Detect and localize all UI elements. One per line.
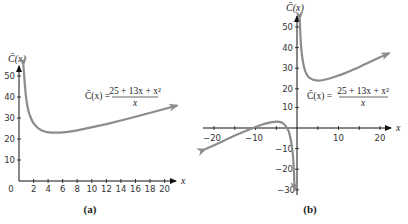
y-tick-label: 40 — [282, 43, 293, 53]
x-axis-label: x — [395, 122, 401, 133]
x-tick-label: 10 — [333, 133, 344, 143]
x-tick-label: 10 — [86, 184, 97, 194]
cost-curve-left-branch — [205, 122, 295, 190]
cost-curve-right-branch — [300, 19, 389, 81]
figure: 0 2 4 6 8 10 12 14 16 18 20 x 10 20 30 4… — [0, 0, 408, 224]
y-tick-label: 50 — [4, 71, 15, 81]
y-tick-label: 30 — [4, 113, 15, 123]
y-tick-label: 20 — [4, 134, 15, 144]
x-tick-label: 4 — [45, 184, 50, 194]
y-tick-label: −30 — [277, 185, 295, 195]
y-axis-label: C̄(x) — [8, 53, 26, 65]
equation-label: C̄(x) = 25 + 13x + x² x — [85, 86, 161, 108]
svg-text:C̄(x) =: C̄(x) = — [85, 90, 110, 102]
svg-text:x: x — [132, 98, 138, 108]
x-tick-label: 18 — [145, 184, 156, 194]
svg-text:C̄(x) =: C̄(x) = — [307, 90, 332, 102]
svg-text:25 + 13x + x²: 25 + 13x + x² — [109, 86, 161, 96]
svg-text:25 + 13x + x²: 25 + 13x + x² — [337, 86, 389, 96]
y-tick-label: 50 — [282, 22, 293, 32]
x-tick-label: 16 — [130, 184, 141, 194]
y-tick-label: 40 — [4, 92, 15, 102]
y-tick-label: 10 — [4, 155, 15, 165]
panel-label-b: (b) — [303, 203, 317, 216]
equation-label: C̄(x) = 25 + 13x + x² x — [307, 86, 389, 108]
x-tick-label: −10 — [245, 133, 263, 143]
x-tick-label: 6 — [60, 184, 65, 194]
x-tick-label: 0 — [8, 184, 13, 194]
x-tick-label: 8 — [74, 184, 79, 194]
x-tick-label: 2 — [31, 184, 36, 194]
x-tick-label: 20 — [375, 133, 386, 143]
y-tick-label: 10 — [282, 102, 293, 112]
y-axis-label: C̄(x) — [286, 2, 304, 14]
panel-label-a: (a) — [84, 203, 97, 216]
y-tick-label: 30 — [282, 63, 293, 73]
x-tick-label: 14 — [115, 184, 126, 194]
y-tick-label: −10 — [275, 144, 293, 154]
panel-b: −20 −10 10 20 x 50 40 30 20 10 −10 −20 −… — [203, 2, 401, 216]
x-tick-label: −20 — [203, 133, 221, 143]
y-tick-label: −20 — [275, 164, 293, 174]
x-tick-label: 12 — [101, 184, 112, 194]
svg-text:x: x — [360, 98, 366, 108]
panel-a: 0 2 4 6 8 10 12 14 16 18 20 x 10 20 30 4… — [4, 53, 186, 216]
x-tick-label: 20 — [159, 184, 170, 194]
x-axis-label: x — [180, 175, 186, 186]
y-tick-label: 20 — [282, 84, 293, 94]
